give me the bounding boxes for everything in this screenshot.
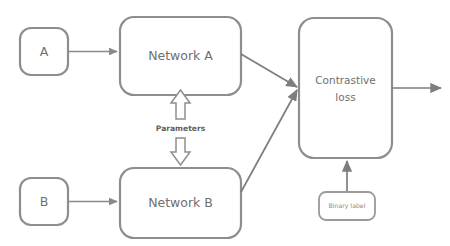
node-input-a[interactable]: A bbox=[20, 28, 68, 75]
node-network-a[interactable]: Network A bbox=[120, 17, 241, 95]
edge-parameters-down bbox=[171, 138, 190, 165]
siamese-network-diagram: A Network A B Network B Contrastive loss… bbox=[0, 0, 450, 246]
node-network-a-label: Network A bbox=[148, 48, 213, 63]
node-contrastive-loss[interactable]: Contrastive loss bbox=[299, 18, 392, 158]
parameters-down-block-arrow-icon bbox=[171, 138, 190, 165]
node-contrastive-loss-shape bbox=[299, 18, 392, 158]
edge-network-b-to-loss bbox=[241, 90, 297, 192]
node-binary-label[interactable]: Binary label bbox=[319, 192, 375, 220]
node-network-b[interactable]: Network B bbox=[120, 168, 241, 238]
edge-network-a-to-loss-line bbox=[241, 54, 297, 87]
node-binary-label-text: Binary label bbox=[329, 202, 366, 210]
diagram-canvas: A Network A B Network B Contrastive loss… bbox=[0, 0, 450, 246]
node-network-b-label: Network B bbox=[148, 195, 213, 210]
node-input-b-label: B bbox=[40, 194, 49, 209]
edge-network-b-to-loss-line bbox=[241, 90, 297, 192]
node-input-b[interactable]: B bbox=[20, 178, 68, 225]
edge-label-parameters: Parameters bbox=[156, 124, 206, 133]
node-contrastive-loss-label-line1: Contrastive bbox=[315, 74, 375, 86]
edge-network-a-to-loss bbox=[241, 54, 297, 87]
node-contrastive-loss-label-line2: loss bbox=[335, 91, 355, 103]
node-input-a-label: A bbox=[40, 44, 49, 59]
